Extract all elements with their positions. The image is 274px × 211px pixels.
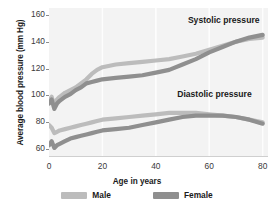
annotation-systolic-pressure: Systolic pressure [188,15,260,25]
blood-pressure-chart: Average blood pressure (mm Hg) 608010012… [0,0,274,211]
legend-label-female: Female [184,190,213,200]
legend-swatch-male [61,192,87,199]
y-tick-label-100: 100 [19,89,45,99]
y-tick-60 [46,149,49,150]
y-tick-100 [46,95,49,96]
x-tick-label-80: 80 [250,161,274,171]
annotation-diastolic-pressure: Diastolic pressure [177,89,252,99]
y-tick-label-160: 160 [19,9,45,19]
plot-area [49,8,268,156]
y-tick-label-80: 80 [19,116,45,126]
x-axis-title: Age in years [0,177,274,186]
legend-item-male: Male [61,190,111,200]
legend-item-female: Female [153,190,213,200]
x-tick-label-60: 60 [196,161,222,171]
x-tick-label-0: 0 [36,161,62,171]
y-tick-80 [46,122,49,123]
y-tick-label-60: 60 [19,143,45,153]
y-tick-label-140: 140 [19,36,45,46]
x-tick-label-20: 20 [89,161,115,171]
y-tick-120 [46,69,49,70]
y-axis-title: Average blood pressure (mm Hg) [16,8,25,158]
chart-legend: MaleFemale [0,190,274,200]
x-tick-label-40: 40 [143,161,169,171]
y-tick-label-120: 120 [19,63,45,73]
legend-swatch-female [153,192,179,199]
y-tick-140 [46,42,49,43]
y-tick-160 [46,15,49,16]
legend-label-male: Male [92,190,111,200]
plot-svg [49,8,268,156]
x-axis-line [49,156,268,157]
